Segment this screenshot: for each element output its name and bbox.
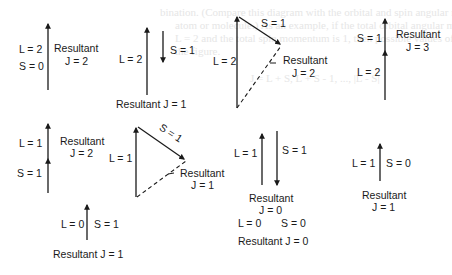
diagram-L0-S0: L = 0 S = 0 Resultant J = 0 [238, 217, 308, 247]
resultant-label: Resultant [283, 54, 327, 66]
S-label: S = 0 [19, 60, 44, 72]
resultant-label: Resultant [396, 28, 440, 40]
resultant-j-label: J = 0 [259, 204, 282, 216]
resultant-j-label: J = 2 [65, 55, 88, 67]
resultant-label: Resultant [180, 167, 224, 179]
L-label: L = 0 [238, 217, 261, 229]
resultant-vector-dashed [137, 161, 186, 197]
S-label: S = 0 [281, 217, 306, 229]
diagram-L0-S1: L = 0 S = 1 Resultant J = 1 [53, 205, 123, 260]
resultant-vector-dashed [237, 46, 281, 108]
S-label: S = 0 [386, 157, 411, 169]
L-label: L = 2 [213, 55, 236, 67]
resultant-j-label: J = 1 [191, 179, 214, 191]
diagram-L2-S0: L = 2 S = 0 Resultant J = 2 [19, 24, 98, 90]
diagram-L1-S1-parallel: L = 1 S = 1 Resultant J = 2 [17, 124, 104, 193]
resultant-j-label: J = 2 [70, 147, 93, 159]
resultant-leader-tick [168, 173, 174, 174]
S-label: S = 1 [357, 32, 382, 44]
resultant-j-label: J = 2 [292, 67, 315, 79]
diagram-L2-S1-antiparallel: L = 2 S = 1 Resultant J = 1 [116, 28, 195, 110]
resultant-label: Resultant [249, 192, 293, 204]
L-label: L = 2 [19, 43, 42, 55]
diagram-L1-S0: L = 1 S = 0 Resultant J = 1 [352, 144, 411, 213]
S-label: S = 1 [282, 144, 307, 156]
S-label: S = 1 [157, 121, 184, 145]
L-label: L = 1 [352, 157, 375, 169]
resultant-label: Resultant J = 0 [238, 235, 308, 247]
diagram-L2-S1-parallel: S = 1 L = 2 Resultant J = 3 [357, 19, 440, 100]
S-label: S = 1 [170, 44, 195, 56]
resultant-label: Resultant [54, 42, 98, 54]
L-label: L = 1 [109, 152, 132, 164]
L-label: L = 2 [357, 66, 380, 78]
L-label: L = 1 [19, 137, 42, 149]
S-label: S = 1 [261, 17, 286, 29]
L-label: L = 0 [61, 218, 84, 230]
resultant-j-label: J = 3 [406, 41, 429, 53]
vector-coupling-diagram: L = 2 S = 0 Resultant J = 2 L = 2 S = 1 … [0, 0, 452, 275]
resultant-label: Resultant [362, 189, 406, 201]
L-label: L = 2 [119, 53, 142, 65]
diagram-L1-S1-antiparallel: L = 1 S = 1 Resultant J = 0 [234, 131, 307, 216]
diagram-L2-S1-angled: L = 2 S = 1 Resultant J = 2 [213, 17, 327, 108]
resultant-label: Resultant [60, 135, 104, 147]
diagram-L1-S1-angled: L = 1 S = 1 Resultant J = 1 [109, 121, 224, 197]
resultant-label: Resultant J = 1 [116, 98, 186, 110]
S-label: S = 1 [17, 167, 42, 179]
resultant-label: Resultant J = 1 [53, 248, 123, 260]
resultant-j-label: J = 1 [372, 201, 395, 213]
L-label: L = 1 [234, 147, 257, 159]
S-label: S = 1 [94, 218, 119, 230]
